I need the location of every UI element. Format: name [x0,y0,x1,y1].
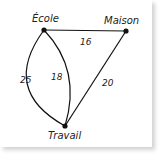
edge-maison-travail [65,31,126,126]
edge-weight-maison-travail: 20 [102,78,114,88]
edge-weight-ecole-travail-outer: 25 [20,75,32,85]
node-label-maison: Maison [104,15,139,26]
diagram-card: École Maison Travail 16 25 18 20 [0,0,152,147]
node-ecole [41,27,46,32]
node-label-travail: Travail [48,130,81,141]
graph-diagram: École Maison Travail 16 25 18 20 [0,0,159,156]
node-label-ecole: École [32,12,59,24]
edge-weight-ecole-travail-inner: 18 [51,72,63,82]
edge-weight-ecole-maison: 16 [80,37,92,47]
edge-ecole-maison [44,30,126,31]
node-travail [62,123,67,128]
node-maison [123,28,128,33]
